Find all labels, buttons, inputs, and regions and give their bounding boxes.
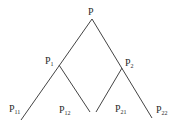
node-p21: P21 [115,104,127,115]
node-p22: P22 [156,105,168,116]
node-p12: P12 [59,105,71,116]
node-p11: P11 [9,104,20,115]
node-p: P [88,7,94,17]
edge-root-left [21,19,92,120]
node-p1: P1 [45,56,54,67]
node-p2: P2 [125,58,134,69]
tree-edges [0,0,175,126]
